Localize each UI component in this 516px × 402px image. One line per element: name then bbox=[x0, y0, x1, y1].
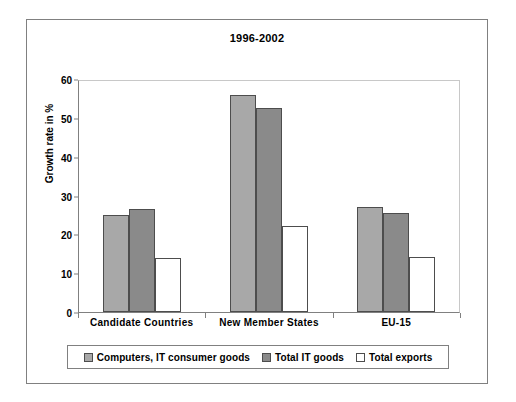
chart-title: 1996-2002 bbox=[27, 32, 487, 44]
legend-label: Total exports bbox=[369, 352, 432, 363]
legend-item[interactable]: Total IT goods bbox=[262, 352, 344, 363]
y-axis-tick-label: 60 bbox=[61, 75, 72, 86]
bar[interactable] bbox=[256, 108, 282, 312]
bar[interactable] bbox=[383, 213, 409, 312]
bar[interactable] bbox=[230, 95, 256, 312]
bars-layer bbox=[79, 81, 459, 312]
bar[interactable] bbox=[409, 257, 435, 312]
bar[interactable] bbox=[282, 226, 308, 312]
plot-area bbox=[78, 80, 460, 313]
bar[interactable] bbox=[129, 209, 155, 312]
y-axis-ticks: 0102030405060 bbox=[27, 80, 78, 313]
y-axis-tick-label: 20 bbox=[61, 230, 72, 241]
y-axis-tick-label: 40 bbox=[61, 152, 72, 163]
x-axis-labels: Candidate CountriesNew Member StatesEU-1… bbox=[78, 317, 460, 328]
legend-swatch-icon bbox=[356, 353, 365, 362]
bar[interactable] bbox=[103, 215, 129, 312]
legend-label: Computers, IT consumer goods bbox=[97, 352, 250, 363]
x-axis-category-label: EU-15 bbox=[333, 317, 460, 328]
bar-group bbox=[103, 81, 181, 312]
x-axis-category-label: Candidate Countries bbox=[78, 317, 205, 328]
legend-item[interactable]: Computers, IT consumer goods bbox=[84, 352, 250, 363]
bar-group bbox=[357, 81, 435, 312]
y-axis-tick-label: 10 bbox=[61, 269, 72, 280]
y-axis-tick-label: 0 bbox=[66, 308, 72, 319]
y-axis-tick-label: 50 bbox=[61, 113, 72, 124]
chart-legend: Computers, IT consumer goodsTotal IT goo… bbox=[67, 345, 449, 369]
x-axis-category-label: New Member States bbox=[205, 317, 332, 328]
bar[interactable] bbox=[357, 207, 383, 312]
chart-figure: 1996-2002 Growth rate in % 0102030405060… bbox=[26, 19, 488, 384]
legend-item[interactable]: Total exports bbox=[356, 352, 432, 363]
legend-swatch-icon bbox=[262, 353, 271, 362]
x-axis-tick-mark bbox=[460, 313, 461, 318]
bar[interactable] bbox=[155, 258, 181, 312]
y-axis-tick-label: 30 bbox=[61, 191, 72, 202]
legend-swatch-icon bbox=[84, 353, 93, 362]
legend-label: Total IT goods bbox=[275, 352, 344, 363]
bar-group bbox=[230, 81, 308, 312]
